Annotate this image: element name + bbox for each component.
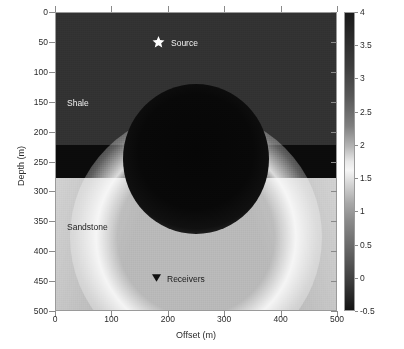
x-axis-title: Offset (m) xyxy=(55,330,337,340)
y-tick-label: 0 xyxy=(43,7,48,17)
y-tick-inner xyxy=(331,251,337,252)
colorbar-tick xyxy=(355,112,358,113)
colorbar-tick-label: 0 xyxy=(360,273,365,283)
y-tick xyxy=(49,281,55,282)
colorbar-tick-label: 2.5 xyxy=(360,107,372,117)
y-tick-inner xyxy=(331,12,337,13)
y-tick-inner xyxy=(331,221,337,222)
x-tick-inner xyxy=(224,6,225,12)
colorbar-tick-label: 3 xyxy=(360,73,365,83)
y-tick xyxy=(49,132,55,133)
x-tick-inner xyxy=(337,6,338,12)
receivers-label: Receivers xyxy=(167,274,205,284)
colorbar xyxy=(344,12,355,311)
colorbar-tick-label: -0.5 xyxy=(360,306,375,316)
y-tick-inner xyxy=(331,281,337,282)
x-tick-label: 400 xyxy=(274,314,288,324)
colorbar-tick xyxy=(355,12,358,13)
star-marker-icon xyxy=(152,35,165,50)
colorbar-tick xyxy=(355,311,358,312)
y-tick-inner xyxy=(331,132,337,133)
y-tick-label: 50 xyxy=(39,37,48,47)
y-tick-inner xyxy=(331,72,337,73)
y-tick xyxy=(49,162,55,163)
y-tick-label: 350 xyxy=(34,216,48,226)
layer-label-shale: Shale xyxy=(67,98,89,108)
x-tick-inner xyxy=(55,6,56,12)
colorbar-tick-label: 1.5 xyxy=(360,173,372,183)
heatmap-noise-overlay xyxy=(56,13,336,310)
geophysical-heatmap-figure: Source Receivers Shale Sandstone 0501001… xyxy=(0,0,404,349)
x-tick-label: 100 xyxy=(104,314,118,324)
colorbar-tick xyxy=(355,278,358,279)
colorbar-tick-label: 4 xyxy=(360,7,365,17)
x-tick-label: 200 xyxy=(161,314,175,324)
y-tick-inner xyxy=(331,102,337,103)
colorbar-tick-label: 2 xyxy=(360,140,365,150)
y-tick-inner xyxy=(331,42,337,43)
colorbar-tick-label: 0.5 xyxy=(360,240,372,250)
y-tick xyxy=(49,12,55,13)
y-axis-title: Depth (m) xyxy=(16,121,26,211)
y-tick-label: 450 xyxy=(34,276,48,286)
colorbar-tick xyxy=(355,211,358,212)
y-tick-inner xyxy=(331,191,337,192)
colorbar-tick xyxy=(355,245,358,246)
y-tick-label: 400 xyxy=(34,246,48,256)
y-tick xyxy=(49,191,55,192)
source-annotation: Source xyxy=(152,35,198,50)
x-tick-label: 500 xyxy=(330,314,344,324)
y-tick xyxy=(49,251,55,252)
colorbar-tick-label: 1 xyxy=(360,206,365,216)
y-tick-label: 150 xyxy=(34,97,48,107)
y-tick xyxy=(49,102,55,103)
colorbar-tick xyxy=(355,178,358,179)
y-tick-inner xyxy=(331,162,337,163)
layer-label-sandstone: Sandstone xyxy=(67,222,108,232)
y-tick xyxy=(49,42,55,43)
colorbar-tick xyxy=(355,145,358,146)
receivers-annotation: Receivers xyxy=(152,274,205,284)
triangle-down-marker-icon xyxy=(152,274,161,284)
colorbar-tick-label: 3.5 xyxy=(360,40,372,50)
y-tick-label: 250 xyxy=(34,157,48,167)
y-tick xyxy=(49,221,55,222)
y-tick xyxy=(49,72,55,73)
x-tick-label: 0 xyxy=(53,314,58,324)
colorbar-tick xyxy=(355,78,358,79)
y-tick-label: 100 xyxy=(34,67,48,77)
y-tick-label: 200 xyxy=(34,127,48,137)
plot-area: Source Receivers Shale Sandstone xyxy=(55,12,337,311)
y-tick-label: 300 xyxy=(34,186,48,196)
colorbar-tick xyxy=(355,45,358,46)
y-tick-label: 500 xyxy=(34,306,48,316)
x-tick-inner xyxy=(111,6,112,12)
source-label: Source xyxy=(171,38,198,48)
x-tick-label: 300 xyxy=(217,314,231,324)
x-tick-inner xyxy=(281,6,282,12)
x-tick-inner xyxy=(168,6,169,12)
